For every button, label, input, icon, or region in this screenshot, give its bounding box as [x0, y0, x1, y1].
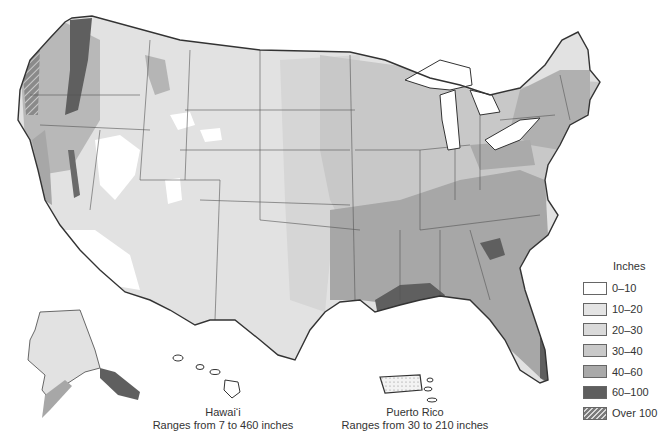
legend-title: Inches: [613, 260, 667, 272]
legend-item: 40–60: [583, 361, 667, 382]
puerto-rico-caption: Puerto Rico Ranges from 30 to 210 inches: [330, 406, 500, 432]
hawaii-caption: Hawai‘i Ranges from 7 to 460 inches: [148, 406, 298, 432]
legend: Inches 0–10 10–20 20–30 30–40 40–60 60–1…: [583, 260, 667, 424]
legend-swatch: [583, 282, 607, 295]
legend-item: 60–100: [583, 382, 667, 403]
legend-label: 20–30: [612, 324, 643, 336]
contiguous-us: [18, 16, 600, 385]
hawaii-range: Ranges from 7 to 460 inches: [148, 419, 298, 432]
precipitation-map: [0, 0, 667, 443]
puerto-rico-name: Puerto Rico: [330, 406, 500, 419]
legend-label: 10–20: [612, 303, 643, 315]
legend-swatch: [583, 365, 607, 378]
legend-swatch: [583, 303, 607, 316]
legend-swatch-hatched: [583, 407, 607, 420]
legend-swatch: [583, 344, 607, 357]
puerto-rico-inset: [380, 375, 437, 402]
puerto-rico-range: Ranges from 30 to 210 inches: [330, 419, 500, 432]
legend-item: 30–40: [583, 340, 667, 361]
legend-item: 0–10: [583, 278, 667, 299]
legend-item: Over 100: [583, 403, 667, 424]
legend-item: 20–30: [583, 320, 667, 341]
legend-item: 10–20: [583, 299, 667, 320]
legend-label: 0–10: [612, 282, 636, 294]
legend-label: 30–40: [612, 345, 643, 357]
alaska-inset: [28, 310, 140, 418]
legend-label: 60–100: [612, 386, 649, 398]
legend-swatch: [583, 323, 607, 336]
legend-swatch: [583, 386, 607, 399]
hawaii-inset: [173, 355, 240, 398]
hawaii-name: Hawai‘i: [148, 406, 298, 419]
legend-label: 40–60: [612, 366, 643, 378]
legend-label: Over 100: [612, 407, 657, 419]
